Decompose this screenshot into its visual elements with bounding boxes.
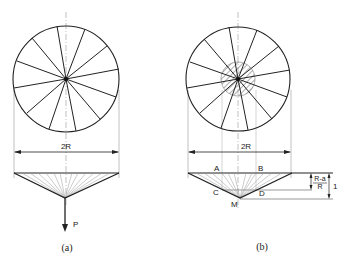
small-dim-denominator: R [317, 183, 322, 190]
point-label-c: C [213, 188, 219, 197]
total-dim-arrow-bottom [328, 194, 331, 199]
center-point-b [236, 77, 240, 81]
total-dim-label: 1 [333, 182, 338, 191]
dim-arrow-left-b [188, 150, 195, 154]
center-point-a [64, 77, 68, 81]
dimension-label-a: 2R [61, 142, 71, 151]
small-dim-numerator: R-a [314, 175, 325, 182]
caption-b: (b) [256, 241, 268, 253]
dim-arrow-left-a [14, 150, 21, 154]
point-label-m: M [231, 200, 238, 209]
small-dim-arrow-bottom [310, 185, 313, 190]
load-arrow-head [62, 224, 68, 232]
point-label-a: A [214, 164, 220, 173]
caption-a: (a) [61, 242, 72, 254]
diagram-canvas: 2R P (a) [0, 0, 353, 268]
point-label-b: B [258, 164, 263, 173]
point-label-d: D [259, 189, 265, 198]
load-label-p: P [73, 220, 78, 229]
dim-arrow-right-b [284, 150, 291, 154]
total-dim-arrow-top [328, 173, 331, 178]
panel-a: 2R P (a) [13, 12, 119, 254]
cone-thin-lines-b [196, 173, 282, 198]
small-dim-arrow-top [310, 173, 313, 178]
cone-outline-b [188, 173, 292, 198]
dimension-label-b: 2R [241, 142, 251, 151]
panel-b: 2R A B C D M R-a R [186, 12, 338, 253]
dim-arrow-right-a [112, 150, 119, 154]
